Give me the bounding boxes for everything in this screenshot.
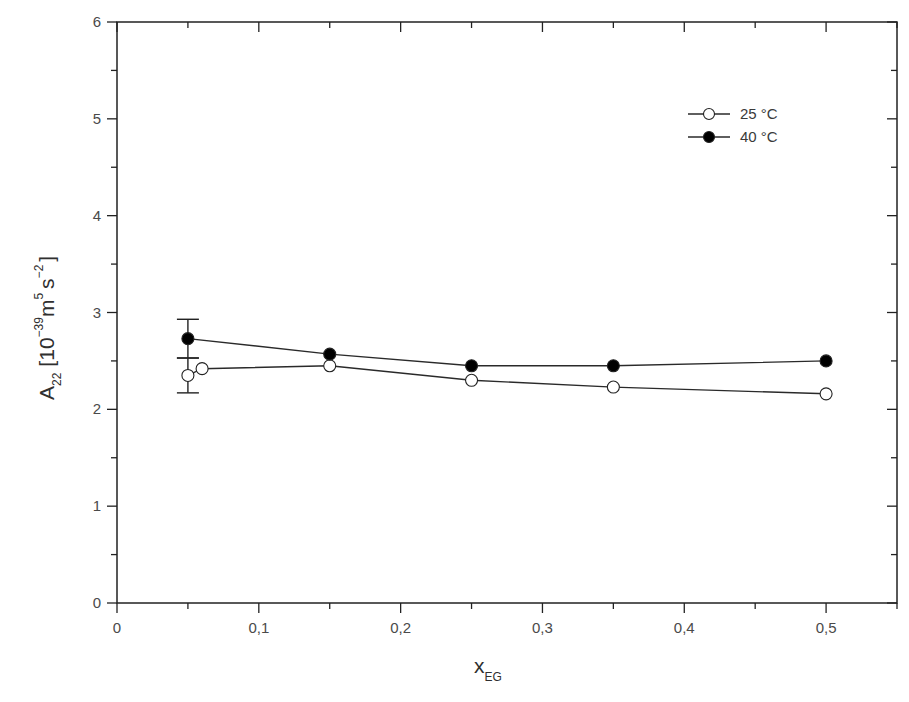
- series-40c: [177, 319, 832, 371]
- filled-circle-legend-icon: [704, 132, 715, 143]
- y-tick-label: 5: [93, 110, 101, 127]
- y-title-exp3: −2: [32, 264, 46, 278]
- plot-border: [117, 22, 897, 603]
- plot-frame: [117, 22, 897, 603]
- y-title-close: ]: [35, 256, 58, 262]
- chart-canvas: 00,10,20,30,40,5 0123456 25 °C40 °C xEG …: [0, 0, 909, 702]
- x-axis-ticks: 00,10,20,30,40,5: [113, 22, 897, 636]
- y-axis-title: A22[10−39m5s−2]: [32, 256, 64, 400]
- open-circle-marker-icon: [196, 363, 208, 375]
- y-axis-ticks: 0123456: [93, 13, 897, 611]
- y-title-s: s: [35, 278, 58, 289]
- filled-circle-marker-icon: [820, 355, 832, 367]
- y-tick-label: 3: [93, 304, 101, 321]
- filled-circle-marker-icon: [182, 333, 194, 345]
- x-axis-title-subscript: EG: [485, 670, 502, 684]
- y-tick-label: 1: [93, 497, 101, 514]
- data-series: [177, 319, 832, 400]
- x-tick-label: 0,4: [674, 619, 695, 636]
- open-circle-marker-icon: [466, 374, 478, 386]
- filled-circle-marker-icon: [324, 348, 336, 360]
- y-title-m: m: [35, 300, 58, 318]
- legend-item: 25 °C: [688, 105, 778, 122]
- x-tick-label: 0: [113, 619, 121, 636]
- open-circle-marker-icon: [820, 388, 832, 400]
- y-title-A: A: [35, 386, 58, 400]
- y-tick-label: 2: [93, 400, 101, 417]
- series-line: [188, 339, 826, 366]
- filled-circle-marker-icon: [607, 360, 619, 372]
- legend-item: 40 °C: [688, 128, 778, 145]
- x-tick-label: 0,1: [248, 619, 269, 636]
- series-line: [188, 366, 826, 394]
- y-title-open: [10: [35, 337, 58, 366]
- legend-label: 40 °C: [740, 128, 778, 145]
- x-tick-label: 0,3: [532, 619, 553, 636]
- x-tick-label: 0,2: [390, 619, 411, 636]
- legend-label: 25 °C: [740, 105, 778, 122]
- open-circle-marker-icon: [607, 381, 619, 393]
- y-tick-label: 0: [93, 594, 101, 611]
- open-circle-legend-icon: [704, 109, 715, 120]
- x-tick-label: 0,5: [816, 619, 837, 636]
- y-title-exp2: 5: [32, 293, 46, 300]
- y-tick-label: 4: [93, 207, 101, 224]
- x-axis-title: xEG: [474, 654, 502, 684]
- open-circle-marker-icon: [182, 369, 194, 381]
- series-25c: [177, 358, 832, 400]
- filled-circle-marker-icon: [466, 360, 478, 372]
- legend: 25 °C40 °C: [688, 105, 778, 145]
- y-title-exp1: −39: [32, 317, 46, 338]
- open-circle-marker-icon: [324, 360, 336, 372]
- x-axis-title-main: x: [474, 654, 485, 677]
- y-title-A-sub: 22: [50, 372, 64, 386]
- y-tick-label: 6: [93, 13, 101, 30]
